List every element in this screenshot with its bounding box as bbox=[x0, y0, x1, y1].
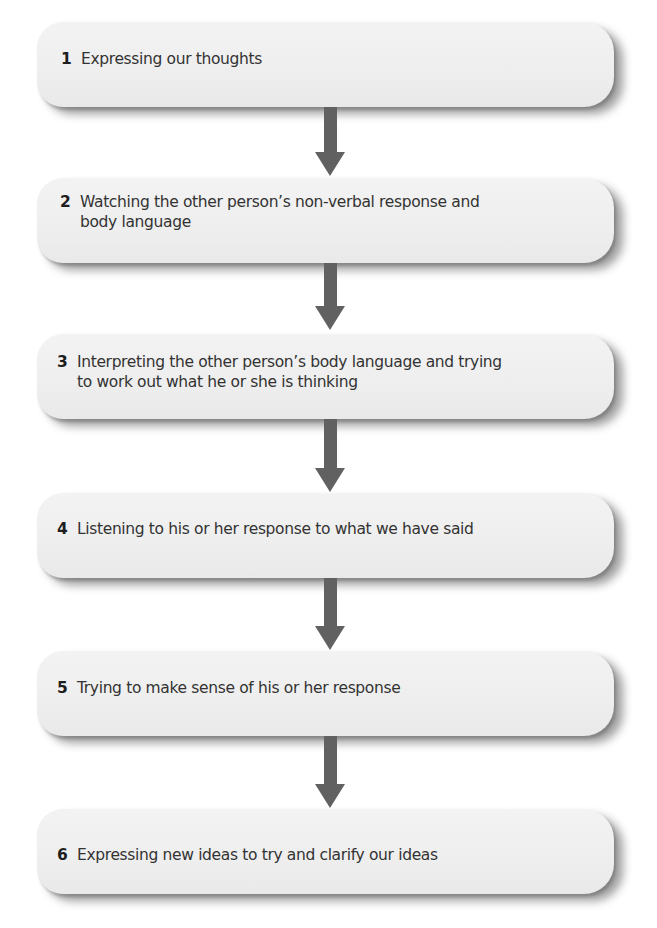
arrow-head bbox=[315, 468, 345, 492]
step-box-5: 5 Trying to make sense of his or her res… bbox=[37, 651, 614, 736]
arrow-shaft bbox=[324, 419, 337, 469]
step-box-1: 1 Expressing our thoughts bbox=[37, 22, 614, 107]
step-row: 3 Interpreting the other person’s body l… bbox=[57, 353, 594, 392]
arrow-head bbox=[315, 626, 345, 650]
step-text: Trying to make sense of his or her respo… bbox=[77, 679, 400, 699]
step-box-2: 2 Watching the other person’s non-verbal… bbox=[37, 178, 614, 263]
step-text: Listening to his or her response to what… bbox=[77, 520, 474, 540]
step-box-4: 4 Listening to his or her response to wh… bbox=[37, 493, 614, 578]
step-box-3: 3 Interpreting the other person’s body l… bbox=[37, 334, 614, 419]
step-text: Watching the other person’s non-verbal r… bbox=[80, 193, 479, 232]
arrow-shaft bbox=[324, 107, 337, 153]
step-row: 6 Expressing new ideas to try and clarif… bbox=[57, 846, 594, 866]
arrow-shaft bbox=[324, 578, 337, 627]
step-text: Expressing our thoughts bbox=[81, 50, 262, 70]
communication-flowchart: 1 Expressing our thoughts 2 Watching the… bbox=[0, 0, 657, 928]
arrow-down-icon bbox=[314, 736, 346, 809]
arrow-head bbox=[315, 152, 345, 176]
step-row: 1 Expressing our thoughts bbox=[57, 50, 594, 70]
arrow-head bbox=[315, 784, 345, 808]
arrow-down-icon bbox=[314, 419, 346, 493]
arrow-down-icon bbox=[314, 263, 346, 333]
step-number: 6 bbox=[57, 846, 77, 866]
arrow-head bbox=[315, 306, 345, 330]
step-number: 3 bbox=[57, 353, 77, 373]
step-row: 4 Listening to his or her response to wh… bbox=[57, 520, 594, 540]
step-box-6: 6 Expressing new ideas to try and clarif… bbox=[37, 809, 614, 894]
arrow-down-icon bbox=[314, 578, 346, 651]
step-text: Expressing new ideas to try and clarify … bbox=[77, 846, 438, 866]
arrow-down-icon bbox=[314, 107, 346, 177]
step-row: 5 Trying to make sense of his or her res… bbox=[57, 679, 594, 699]
step-number: 5 bbox=[57, 679, 77, 699]
step-text: Interpreting the other person’s body lan… bbox=[77, 353, 502, 392]
arrow-shaft bbox=[324, 263, 337, 307]
arrow-shaft bbox=[324, 736, 337, 785]
step-number: 1 bbox=[61, 50, 81, 70]
step-number: 4 bbox=[57, 520, 77, 540]
step-row: 2 Watching the other person’s non-verbal… bbox=[57, 193, 594, 232]
step-number: 2 bbox=[60, 193, 80, 213]
